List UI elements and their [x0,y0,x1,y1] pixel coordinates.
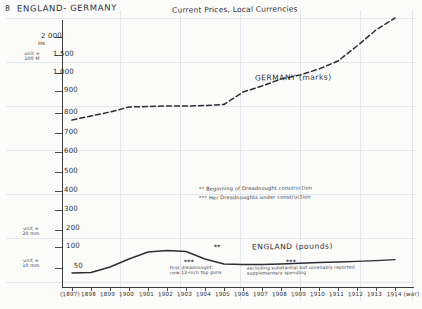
grid-line-h [6,106,416,107]
germany-unit-note: unit = 100 M [22,51,42,62]
series-label-england: ENGLAND (pounds) [252,242,333,252]
grid-line-h [6,18,416,19]
page-title: ENGLAND- GERMANY [17,2,117,13]
grid-line-h [6,62,416,63]
x-label-year: 1910 [310,291,325,297]
marker-dreadnought-under: *** [184,258,194,265]
x-label-year: 1906 [234,291,249,297]
y-label-germany: 500 [38,167,78,175]
germany-unit-mk: MK [38,41,45,46]
x-label-year: 1907 [253,291,268,297]
legend-dreadnought-begin: ** Beginning of Dreadnought construction [199,184,312,191]
y-label-germany: 400 [38,186,78,194]
legend-dreadnought-under: *** Her Dreadnoughts under construction [199,193,311,200]
page-number: 8 [5,4,10,13]
x-label-year: 1901 [139,291,154,297]
x-label-year: 1909 [291,291,306,297]
grid-line-h [6,238,416,239]
notebook-page: 8 ENGLAND- GERMANY Current Prices, Local… [0,0,422,309]
x-label-year: 1904 [196,291,211,297]
chart-title: Current Prices, Local Currencies [172,4,298,14]
marker-supplementary: *** [286,258,296,265]
x-label-year: 1911 [329,291,344,297]
x-label-year: (1897) [60,291,80,297]
x-label-year: 1914 (war) [386,291,420,298]
grid-line-v [300,10,301,301]
grid-line-v [240,10,241,301]
y-label-germany: 300 [38,205,78,213]
x-label-year: 1905 [215,291,230,297]
x-label-year: 1913 [367,291,382,297]
x-label-year: 1908 [272,291,287,297]
y-label-england: 100 [40,242,80,250]
x-label-year: 1899 [100,291,115,297]
england-unit-note-upper: unit = 20 mm [22,226,40,237]
y-label-england: 50 [43,262,83,270]
grid-line-v [412,10,413,301]
y-label-england: 200 [40,224,80,232]
grid-line-h [6,282,416,283]
x-label-year: 1900 [119,291,134,297]
grid-line-v [360,10,361,301]
x-label-year: 1898 [81,291,96,297]
y-label-germany: 900 [38,86,78,94]
england-note-left: first dreadnought; new 12-inch top guns [170,265,222,276]
y-label-germany: 1 000 [34,68,74,76]
series-label-germany: GERMANY (marks) [255,73,332,83]
x-label-year: 1912 [348,291,363,297]
england-unit-note-lower: unit = 10 mm [22,258,40,269]
england-note-right: excluding substantial but unreliably rep… [247,264,375,276]
marker-dreadnought-begin: ** [214,243,221,250]
x-label-year: 1902 [158,291,173,297]
x-axis [62,287,414,288]
y-label-germany: 700 [38,128,78,136]
x-label-year: 1903 [177,291,192,297]
y-label-germany: 600 [38,147,78,155]
grid-line-v [180,10,181,301]
y-label-germany: 2 000 [22,32,62,40]
y-label-germany: 800 [38,108,78,116]
grid-line-v [120,10,121,301]
